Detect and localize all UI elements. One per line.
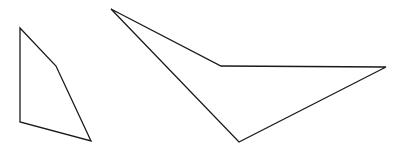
quadrilateral-left: [20, 28, 91, 141]
quadrilateral-right: [111, 9, 386, 142]
diagram-canvas: [0, 0, 408, 151]
